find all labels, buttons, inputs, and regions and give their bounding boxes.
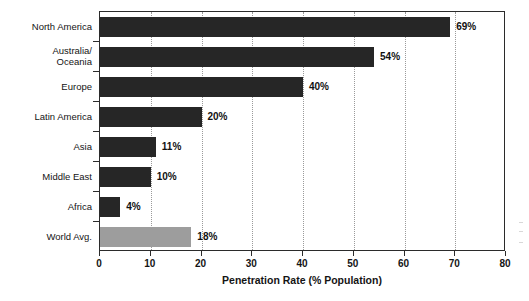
bar — [100, 47, 374, 67]
x-axis-tick-10 — [150, 251, 151, 256]
x-axis-tick-label: 60 — [384, 258, 424, 269]
category-label: North America — [0, 21, 92, 32]
y-axis-tick — [93, 131, 99, 132]
bar — [100, 107, 202, 127]
x-axis-tick-30 — [251, 251, 252, 256]
x-axis-tick-label: 70 — [434, 258, 474, 269]
x-axis-tick-label: 30 — [231, 258, 271, 269]
bar — [100, 227, 191, 247]
category-label: Middle East — [0, 171, 92, 182]
penetration-rate-bar-chart: North AmericaAustralia/ OceaniaEuropeLat… — [0, 0, 529, 301]
bar-value-label: 40% — [309, 77, 329, 97]
category-label: World Avg. — [0, 231, 92, 242]
gridline-60 — [405, 12, 406, 250]
category-label: Asia — [0, 141, 92, 152]
category-label: Europe — [0, 81, 92, 92]
x-axis-tick-label: 40 — [282, 258, 322, 269]
bar-value-label: 10% — [157, 167, 177, 187]
bar-value-label: 18% — [197, 227, 217, 247]
x-axis-tick-label: 80 — [485, 258, 525, 269]
page-edge-marks — [517, 222, 527, 262]
x-axis-tick-60 — [404, 251, 405, 256]
x-axis-title: Penetration Rate (% Population) — [99, 274, 505, 286]
x-axis-tick-80 — [505, 251, 506, 256]
bar-value-label: 20% — [208, 107, 228, 127]
bar — [100, 197, 120, 217]
y-axis-tick — [93, 41, 99, 42]
x-axis-tick-70 — [454, 251, 455, 256]
x-axis-tick-20 — [201, 251, 202, 256]
bar — [100, 137, 156, 157]
bar — [100, 77, 303, 97]
x-axis-tick-label: 50 — [333, 258, 373, 269]
plot-area: 69%54%40%20%11%10%4%18% — [99, 11, 505, 251]
bar-value-label: 54% — [380, 47, 400, 67]
y-axis-tick — [93, 221, 99, 222]
bar-value-label: 11% — [162, 137, 181, 157]
category-label: Africa — [0, 201, 92, 212]
category-label: Latin America — [0, 111, 92, 122]
x-axis-tick-label: 0 — [79, 258, 119, 269]
y-axis-tick — [93, 71, 99, 72]
gridline-70 — [455, 12, 456, 250]
bar-value-label: 4% — [126, 197, 140, 217]
x-axis-tick-40 — [302, 251, 303, 256]
x-axis-tick-0 — [99, 251, 100, 256]
x-axis-tick-label: 10 — [130, 258, 170, 269]
bar-value-label: 69% — [456, 17, 476, 37]
category-label: Australia/ Oceania — [0, 45, 92, 67]
bar — [100, 167, 151, 187]
y-axis-tick — [93, 101, 99, 102]
category-axis-labels: North AmericaAustralia/ OceaniaEuropeLat… — [0, 11, 92, 251]
x-axis-tick-label: 20 — [181, 258, 221, 269]
x-axis-tick-50 — [353, 251, 354, 256]
plot-inner: 69%54%40%20%11%10%4%18% — [100, 12, 504, 250]
y-axis-tick — [93, 161, 99, 162]
y-axis-tick — [93, 191, 99, 192]
bar — [100, 17, 450, 37]
